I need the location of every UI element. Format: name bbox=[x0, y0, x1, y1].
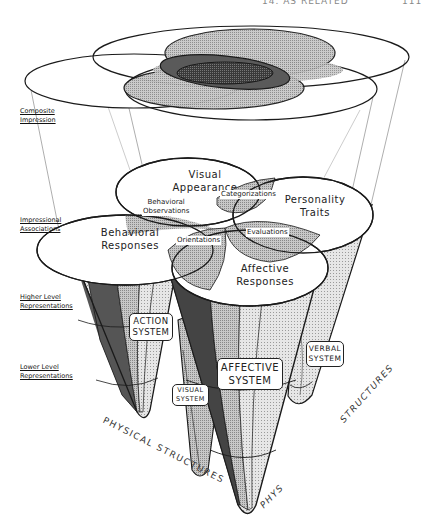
visual-system-box: VISUAL SYSTEM bbox=[172, 384, 209, 406]
level-label-line1: Higher Level bbox=[20, 293, 73, 302]
verbal-system-box: VERBAL SYSTEM bbox=[306, 341, 344, 367]
level-label-line2: Impression bbox=[20, 116, 56, 125]
system-label-line1: VERBAL bbox=[308, 344, 342, 354]
system-label-line2: SYSTEM bbox=[174, 395, 207, 404]
level-label-line1: Lower Level bbox=[20, 363, 73, 372]
domain-label-line1: Personality bbox=[275, 193, 355, 206]
domain-behavioral-responses: Behavioral Responses bbox=[90, 226, 170, 252]
action-system-box: ACTION SYSTEM bbox=[129, 313, 173, 341]
overlap-categorizations: Categorizations bbox=[220, 190, 277, 199]
affective-system-box: AFFECTIVE SYSTEM bbox=[217, 358, 283, 390]
domain-affective-responses: Affective Responses bbox=[225, 262, 305, 288]
domain-label-line2: Responses bbox=[225, 275, 305, 288]
level-label-line2: Representations bbox=[20, 302, 73, 311]
level-higher-representations: Higher Level Representations bbox=[20, 293, 73, 311]
level-impressional-associations: Impressional Associations bbox=[20, 216, 61, 234]
level-composite-impression: Composite Impression bbox=[20, 107, 56, 125]
system-label-line2: SYSTEM bbox=[220, 374, 280, 387]
level-label-line1: Composite bbox=[20, 107, 56, 116]
level-label-line1: Impressional bbox=[20, 216, 61, 225]
domain-label-line2: Responses bbox=[90, 239, 170, 252]
level-label-line2: Associations bbox=[20, 225, 61, 234]
domain-label-line1: Behavioral bbox=[90, 226, 170, 239]
overlap-label-line1: Behavioral bbox=[143, 198, 189, 207]
diagram-canvas bbox=[0, 0, 425, 523]
system-label-line1: VISUAL bbox=[174, 386, 207, 395]
domain-label-line2: Traits bbox=[275, 206, 355, 219]
overlap-label-line2: Observations bbox=[143, 207, 189, 216]
level-lower-representations: Lower Level Representations bbox=[20, 363, 73, 381]
system-label-line1: ACTION bbox=[131, 316, 171, 327]
overlap-orientations: Orientations bbox=[176, 236, 221, 245]
system-label-line2: SYSTEM bbox=[308, 354, 342, 364]
domain-label-line1: Visual bbox=[170, 168, 240, 181]
system-label-line2: SYSTEM bbox=[131, 327, 171, 338]
system-label-line1: AFFECTIVE bbox=[220, 361, 280, 374]
overlap-behavioral-observations: Behavioral Observations bbox=[142, 198, 190, 216]
domain-label-line1: Affective bbox=[225, 262, 305, 275]
domain-personality-traits: Personality Traits bbox=[275, 193, 355, 219]
overlap-evaluations: Evaluations bbox=[246, 228, 289, 237]
level-label-line2: Representations bbox=[20, 372, 73, 381]
